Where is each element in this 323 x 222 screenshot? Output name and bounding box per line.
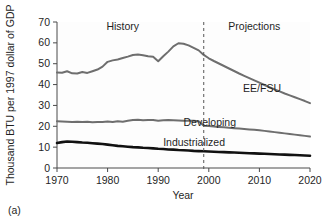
- y-tick-label: 10: [38, 141, 50, 153]
- figure-panel-a: 010203040506070197019801990200020102020 …: [0, 0, 323, 222]
- y-tick-label: 0: [44, 162, 50, 174]
- series-label-ee-fsu: EE/FSU: [243, 82, 281, 94]
- y-tick-label: 20: [38, 120, 50, 132]
- y-tick-label: 30: [38, 99, 50, 111]
- panel-label: (a): [8, 204, 21, 216]
- x-axis-title: Year: [172, 189, 194, 201]
- y-tick-label: 50: [38, 57, 50, 69]
- x-tick-label: 2000: [197, 174, 221, 186]
- x-tick-label: 2010: [248, 174, 272, 186]
- x-tick-label: 1980: [96, 174, 120, 186]
- y-tick-label: 40: [38, 78, 50, 90]
- projections-annotation: Projections: [228, 20, 280, 32]
- x-tick-label: 1990: [147, 174, 171, 186]
- series-label-industrialized: Industrialized: [163, 136, 225, 148]
- y-tick-label: 70: [38, 16, 50, 28]
- x-tick-label: 1970: [45, 174, 69, 186]
- series-label-developing: Developing: [183, 116, 236, 128]
- history-annotation: History: [106, 20, 139, 32]
- x-tick-label: 2020: [298, 174, 322, 186]
- energy-intensity-line-chart: 010203040506070197019801990200020102020 …: [0, 0, 323, 222]
- y-axis-title: Thousand BTU per 1997 dollar of GDP: [4, 5, 16, 186]
- y-tick-label: 60: [38, 36, 50, 48]
